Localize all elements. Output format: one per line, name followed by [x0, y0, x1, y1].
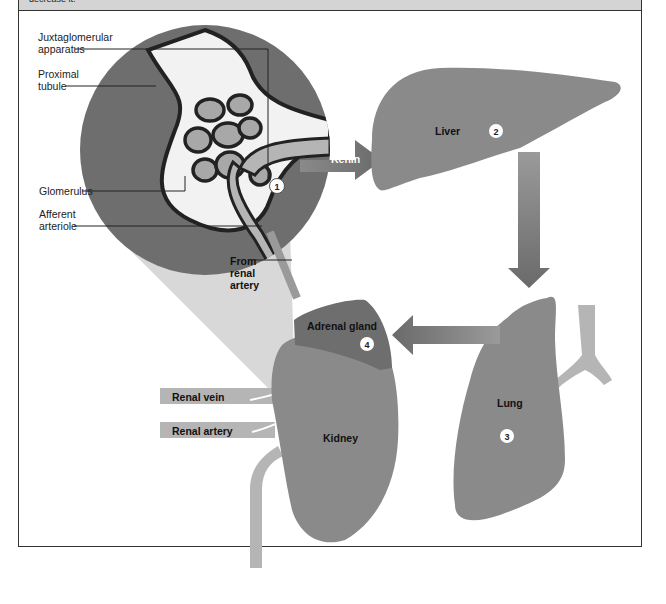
label-from-line3: artery	[230, 279, 259, 291]
label-renal-vein: Renal vein	[172, 391, 225, 403]
label-kidney: Kidney	[323, 432, 358, 444]
label-from-line2: renal	[230, 267, 259, 279]
label-renal-artery: Renal artery	[172, 425, 233, 437]
label-adrenal-gland: Adrenal gland	[307, 320, 377, 332]
label-afferent-line2: arteriole	[39, 220, 77, 232]
renin-angiotensin-diagram: 1 2 3 4	[0, 0, 666, 604]
label-liver: Liver	[435, 125, 460, 137]
label-afferent-arteriole: Afferent arteriole	[39, 208, 77, 232]
svg-text:3: 3	[504, 432, 509, 442]
label-renin: Renin	[331, 153, 360, 165]
label-juxtaglomerular: Juxtaglomerular apparatus	[38, 31, 113, 55]
liver-organ: 2	[371, 68, 620, 191]
liver-to-lung-arrow	[508, 152, 550, 288]
label-lung: Lung	[497, 397, 523, 409]
svg-text:2: 2	[493, 127, 498, 137]
label-juxtaglomerular-line1: Juxtaglomerular	[38, 31, 113, 43]
label-from-renal-artery: From renal artery	[230, 255, 259, 291]
svg-text:4: 4	[364, 340, 369, 350]
label-from-line1: From	[230, 255, 259, 267]
svg-text:1: 1	[274, 182, 279, 192]
label-proximal-line1: Proximal	[38, 68, 79, 80]
label-proximal-line2: tubule	[38, 80, 79, 92]
label-proximal-tubule: Proximal tubule	[38, 68, 79, 92]
label-juxtaglomerular-line2: apparatus	[38, 43, 113, 55]
nephron-inset	[80, 25, 330, 304]
renal-vessels	[160, 388, 288, 568]
label-glomerulus: Glomerulus	[39, 185, 93, 197]
step-marker-1: 1	[270, 179, 285, 194]
label-afferent-line1: Afferent	[39, 208, 77, 220]
